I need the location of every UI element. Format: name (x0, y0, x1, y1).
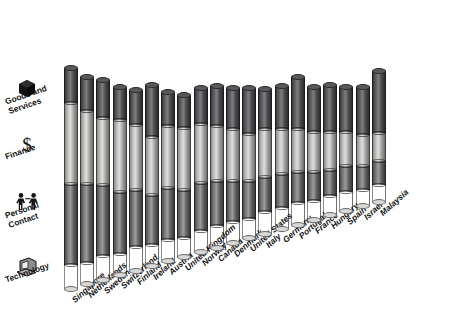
segment-divider (356, 133, 370, 137)
segment-personal[interactable] (307, 172, 321, 201)
cylinder-top-cap (129, 87, 143, 93)
segment-personal[interactable] (129, 190, 143, 247)
segment-goods[interactable] (372, 71, 386, 133)
segment-goods[interactable] (113, 87, 127, 120)
segment-personal[interactable] (177, 190, 191, 238)
segment-finance[interactable] (129, 125, 143, 189)
segment-goods[interactable] (339, 87, 353, 132)
bar-singapore[interactable] (64, 68, 78, 289)
segment-finance[interactable] (372, 133, 386, 162)
segment-personal[interactable] (64, 184, 78, 265)
cylinder-top-cap (258, 86, 272, 92)
segment-personal[interactable] (275, 174, 289, 207)
segment-divider (372, 131, 386, 135)
bar-united-kingdom[interactable] (177, 95, 191, 257)
segment-personal[interactable] (258, 177, 272, 213)
cylinder-top-cap (64, 65, 78, 71)
segment-personal[interactable] (80, 184, 94, 263)
bar-germany[interactable] (275, 86, 289, 229)
segment-finance[interactable] (323, 132, 337, 170)
bar-malaysia[interactable] (372, 71, 386, 202)
bar-hungary[interactable] (323, 85, 337, 216)
segment-finance[interactable] (356, 135, 370, 166)
segment-personal[interactable] (372, 161, 386, 185)
segment-divider (275, 206, 289, 210)
bar-united-states[interactable] (242, 88, 256, 238)
segment-goods[interactable] (258, 89, 272, 129)
segment-finance[interactable] (80, 111, 94, 185)
bar-sweden[interactable] (96, 80, 110, 280)
segment-finance[interactable] (145, 137, 159, 194)
segment-personal[interactable] (226, 181, 240, 221)
segment-divider (161, 238, 175, 242)
segment-divider (307, 199, 321, 203)
segment-finance[interactable] (291, 129, 305, 172)
segment-goods[interactable] (161, 92, 175, 125)
segment-goods[interactable] (275, 86, 289, 129)
segment-goods[interactable] (129, 90, 143, 126)
bar-norway[interactable] (194, 88, 208, 252)
bar-switzerland[interactable] (113, 87, 127, 275)
segment-goods[interactable] (64, 68, 78, 104)
bar-canada[interactable] (210, 86, 224, 248)
segment-finance[interactable] (64, 103, 78, 184)
segment-personal[interactable] (145, 195, 159, 245)
segment-finance[interactable] (258, 129, 272, 177)
segment-personal[interactable] (161, 188, 175, 240)
segment-goods[interactable] (291, 77, 305, 129)
segment-goods[interactable] (80, 77, 94, 110)
segment-finance[interactable] (242, 134, 256, 182)
segment-personal[interactable] (242, 181, 256, 219)
segment-finance[interactable] (275, 129, 289, 174)
bar-israel[interactable] (356, 87, 370, 206)
bar-france[interactable] (307, 87, 321, 220)
segment-divider (145, 193, 159, 197)
cylinder-top-cap (323, 82, 337, 88)
bar-portugal[interactable] (291, 77, 305, 225)
segment-personal[interactable] (356, 166, 370, 190)
segment-personal[interactable] (323, 170, 337, 196)
segment-finance[interactable] (96, 118, 110, 185)
bar-italy[interactable] (258, 89, 272, 234)
segment-goods[interactable] (96, 80, 110, 118)
segment-personal[interactable] (339, 166, 353, 192)
segment-divider (129, 188, 143, 192)
cylinder-top-cap (210, 83, 224, 89)
segment-goods[interactable] (307, 87, 321, 132)
bar-austria[interactable] (161, 92, 175, 261)
segment-goods[interactable] (145, 85, 159, 137)
segment-goods[interactable] (226, 88, 240, 128)
segment-personal[interactable] (194, 183, 208, 231)
segment-divider (210, 179, 224, 183)
segment-goods[interactable] (242, 88, 256, 133)
segment-divider (161, 186, 175, 190)
segment-personal[interactable] (291, 172, 305, 203)
bar-spain[interactable] (339, 87, 353, 211)
segment-goods[interactable] (356, 87, 370, 135)
segment-goods[interactable] (177, 95, 191, 128)
segment-goods[interactable] (210, 86, 224, 126)
segment-personal[interactable] (96, 185, 110, 256)
segment-finance[interactable] (194, 124, 208, 184)
segment-personal[interactable] (113, 192, 127, 254)
bar-denmark[interactable] (226, 88, 240, 243)
segment-finance[interactable] (339, 132, 353, 165)
segment-divider (307, 130, 321, 134)
segment-divider (145, 243, 159, 247)
segment-finance[interactable] (210, 126, 224, 181)
segment-divider (161, 124, 175, 128)
segment-divider (113, 190, 127, 194)
cylinder-top-cap (113, 84, 127, 90)
segment-goods[interactable] (323, 85, 337, 133)
bar-ireland[interactable] (145, 85, 159, 266)
segment-divider (194, 229, 208, 233)
segment-finance[interactable] (113, 120, 127, 191)
bar-netherlands[interactable] (80, 77, 94, 284)
segment-finance[interactable] (226, 129, 240, 181)
segment-personal[interactable] (210, 181, 224, 226)
segment-goods[interactable] (194, 88, 208, 124)
segment-finance[interactable] (177, 128, 191, 190)
segment-finance[interactable] (307, 132, 321, 172)
bar-finland[interactable] (129, 90, 143, 271)
segment-finance[interactable] (161, 126, 175, 188)
